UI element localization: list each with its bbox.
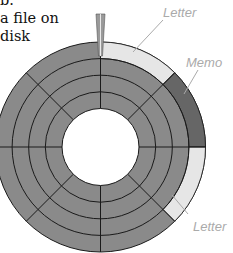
disk-diagram: Letter Memo Letter (0, 0, 233, 253)
label-letter-bottom: Letter (193, 219, 227, 234)
label-letter-top: Letter (163, 5, 197, 20)
leader-letter-top (133, 20, 163, 52)
label-memo: Memo (186, 55, 222, 70)
leader-memo (184, 70, 198, 94)
disk-platter (0, 42, 206, 252)
spindle-hole (62, 109, 139, 186)
